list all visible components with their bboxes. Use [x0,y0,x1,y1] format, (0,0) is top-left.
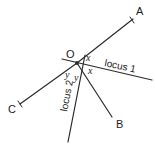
vertex-point-o [75,61,79,65]
ray-ob [77,63,112,117]
angle-label-x-upper: x [85,52,91,63]
locus-2-label: locus 2 [58,79,75,113]
label-point-o: O [66,48,75,60]
angle-label-x-lower: x [87,65,93,76]
geometry-canvas: O A B C x x y y locus 1 locus 2 [0,0,155,146]
geometry-figure: O A B C x x y y locus 1 locus 2 [0,0,155,146]
angle-label-y-left: y [64,69,70,80]
label-point-a: A [136,5,144,17]
label-point-c: C [8,103,16,115]
tick-mark-c-icon [18,101,22,107]
locus-1-label: locus 1 [104,57,138,74]
tick-mark-a-icon [130,17,134,23]
label-point-b: B [116,118,123,130]
